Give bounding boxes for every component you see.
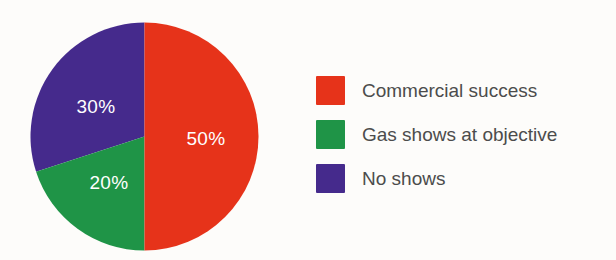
legend-item-commercial-success[interactable]: Commercial success <box>316 68 608 112</box>
legend-swatch-icon-commercial-success <box>316 76 345 105</box>
pie-label-gas-shows-at-objective: 20% <box>89 172 128 193</box>
legend-label-commercial-success: Commercial success <box>362 81 537 100</box>
legend-label-gas-shows-at-objective: Gas shows at objective <box>362 125 557 144</box>
legend-item-no-shows[interactable]: No shows <box>316 156 608 200</box>
legend-label-no-shows: No shows <box>362 169 445 188</box>
legend-swatch-icon-no-shows <box>316 164 345 193</box>
pie-chart-plot-area: 50% 20% 30% <box>30 22 259 251</box>
chart-legend: Commercial success Gas shows at objectiv… <box>316 68 608 200</box>
pie-chart-svg: 50% 20% 30% <box>30 22 259 251</box>
legend-item-gas-shows-at-objective[interactable]: Gas shows at objective <box>316 112 608 156</box>
pie-chart-figure: 50% 20% 30% Commercial success Gas shows… <box>0 0 616 260</box>
pie-label-commercial-success: 50% <box>186 128 225 149</box>
pie-label-no-shows: 30% <box>76 96 115 117</box>
legend-swatch-icon-gas-shows-at-objective <box>316 120 345 149</box>
